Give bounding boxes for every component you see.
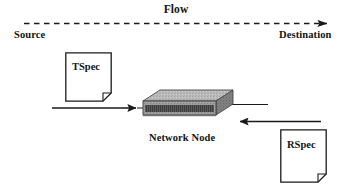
rspec-label: RSpec [287, 139, 316, 150]
diagram-canvas: TSpec RSpec Flow Source Destination Netw… [0, 0, 352, 190]
network-node-base-shadow [143, 114, 216, 116]
tspec-document: TSpec [65, 52, 112, 102]
network-node-graphic [143, 90, 233, 116]
network-node-vent-band [145, 105, 214, 112]
source-label: Source [14, 30, 45, 41]
flow-label: Flow [0, 4, 352, 16]
tspec-label: TSpec [72, 61, 100, 72]
network-node-label: Network Node [149, 133, 215, 144]
destination-label: Destination [279, 30, 331, 41]
rspec-document: RSpec [280, 129, 327, 183]
